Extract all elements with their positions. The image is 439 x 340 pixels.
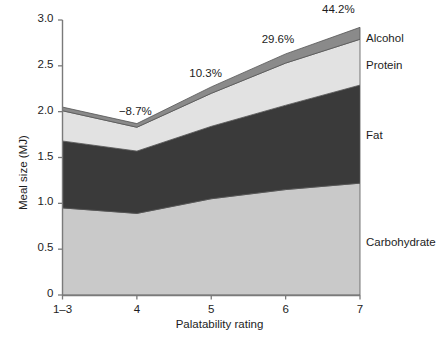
y-tick-label: 1.0 xyxy=(0,195,54,207)
y-tick-label: 0.5 xyxy=(0,241,54,253)
percent-annotation: 44.2% xyxy=(322,3,355,15)
chart-plot-area xyxy=(0,0,439,340)
stacked-area-chart-figure: Meal size (MJ) Palatability rating 00.51… xyxy=(0,0,439,340)
legend-item-protein: Protein xyxy=(366,59,402,71)
y-tick-label: 0 xyxy=(0,287,54,299)
percent-annotation: 10.3% xyxy=(189,67,222,79)
y-tick-label: 3.0 xyxy=(0,12,54,24)
y-tick-label: 2.5 xyxy=(0,58,54,70)
percent-annotation: 29.6% xyxy=(262,33,295,45)
legend-item-alcohol: Alcohol xyxy=(366,32,404,44)
percent-annotation: −8.7% xyxy=(119,105,152,117)
y-tick-label: 2.0 xyxy=(0,104,54,116)
x-tick-label: 5 xyxy=(181,303,241,315)
x-tick-label: 6 xyxy=(256,303,316,315)
legend-item-carbohydrate: Carbohydrate xyxy=(366,236,436,248)
x-axis-title: Palatability rating xyxy=(0,318,439,330)
legend-item-fat: Fat xyxy=(366,129,383,141)
y-tick-label: 1.5 xyxy=(0,150,54,162)
x-tick-label: 1–3 xyxy=(33,303,93,315)
x-tick-label: 7 xyxy=(330,303,390,315)
x-tick-label: 4 xyxy=(107,303,167,315)
